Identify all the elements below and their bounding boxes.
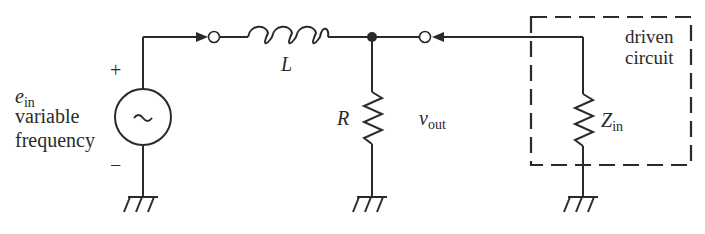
- input-wire: [143, 32, 208, 42]
- load-wire: [432, 32, 583, 94]
- ground-symbol-source: [124, 197, 158, 212]
- source-description-line2: frequency: [15, 130, 95, 150]
- source-label: ein: [15, 86, 35, 106]
- box-label-line2: circuit: [625, 48, 674, 67]
- source-description-line1: variable: [15, 106, 79, 126]
- resistor-label: R: [337, 108, 349, 128]
- arrow-right-icon: [196, 32, 208, 42]
- zin-label: Zin: [601, 110, 623, 130]
- resistor-zin: [575, 94, 593, 197]
- inductor: [219, 27, 372, 44]
- ac-voltage-source: [115, 37, 171, 197]
- box-label-line1: driven: [625, 27, 674, 46]
- ground-symbol-r: [353, 197, 387, 212]
- minus-sign: −: [110, 155, 121, 175]
- plus-sign: +: [110, 60, 121, 80]
- circuit-diagram: + − ein variable frequency L R vout Zin …: [0, 0, 705, 234]
- ground-symbol-zin: [564, 197, 598, 212]
- resistor-r: [364, 37, 382, 197]
- input-terminal: [209, 32, 220, 43]
- inductor-label: L: [281, 54, 292, 74]
- output-voltage-label: vout: [419, 108, 446, 128]
- output-terminal: [420, 32, 431, 43]
